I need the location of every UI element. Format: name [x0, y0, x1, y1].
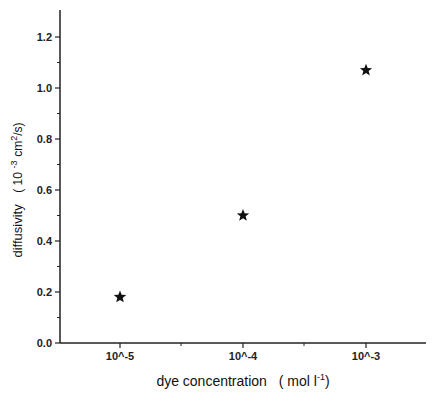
data-points: [114, 64, 372, 303]
y-tick-label: 1.0: [37, 82, 52, 94]
x-ticks: 10^-510^-410^-3: [106, 343, 380, 362]
x-tick-label: 10^-5: [106, 350, 134, 362]
x-axis-title: dye concentration ( mol l-1): [156, 372, 329, 389]
y-tick-label: 0.4: [37, 235, 53, 247]
y-ticks: 0.00.20.40.60.81.01.2: [37, 31, 60, 349]
scatter-chart: 0.00.20.40.60.81.01.2 10^-510^-410^-3 dy…: [0, 0, 435, 407]
y-axis-title: diffusivity ( 10 -3 cm2/s): [5, 122, 25, 257]
y-tick-label: 0.6: [37, 184, 52, 196]
star-marker-icon: [237, 209, 249, 221]
x-tick-label: 10^-4: [229, 350, 258, 362]
y-tick-label: 0.8: [37, 133, 52, 145]
star-marker-icon: [114, 291, 126, 303]
x-tick-label: 10^-3: [352, 350, 380, 362]
y-tick-label: 0.0: [37, 337, 52, 349]
star-marker-icon: [360, 64, 372, 76]
y-tick-label: 1.2: [37, 31, 52, 43]
axes: [60, 10, 426, 343]
y-tick-label: 0.2: [37, 286, 52, 298]
